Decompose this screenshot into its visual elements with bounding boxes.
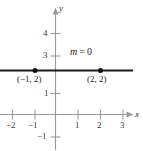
slope-equals-sign: = bbox=[79, 46, 85, 57]
data-point-right bbox=[98, 68, 103, 73]
x-tick-label-2: 2 bbox=[97, 121, 102, 130]
point-label-left: (−1, 2) bbox=[17, 75, 42, 84]
x-tick-label-neg2: −2 bbox=[6, 121, 16, 130]
x-tick-label-3: 3 bbox=[120, 121, 125, 130]
y-tick-label-3: 3 bbox=[43, 51, 48, 60]
y-axis-arrowhead bbox=[53, 8, 59, 15]
x-tick-label-1: 1 bbox=[75, 121, 80, 130]
y-tick-label-4: 4 bbox=[43, 29, 48, 38]
y-tick-label-1: 1 bbox=[44, 89, 49, 98]
coordinate-plane-figure: y x 4 3 1 −1 −2 −1 1 2 3 (−1, 2) (2, 2) … bbox=[0, 0, 143, 151]
slope-annotation: m=0 bbox=[70, 47, 92, 57]
data-point-left bbox=[33, 68, 38, 73]
x-tick-label-neg1: −1 bbox=[28, 121, 38, 130]
slope-value: 0 bbox=[87, 46, 92, 57]
x-axis-label: x bbox=[135, 110, 139, 119]
y-axis-label: y bbox=[59, 4, 63, 13]
point-label-right: (2, 2) bbox=[87, 75, 107, 84]
x-axis-arrowhead bbox=[127, 112, 134, 118]
slope-variable: m bbox=[70, 46, 77, 57]
y-tick-label-neg1: −1 bbox=[37, 132, 47, 141]
